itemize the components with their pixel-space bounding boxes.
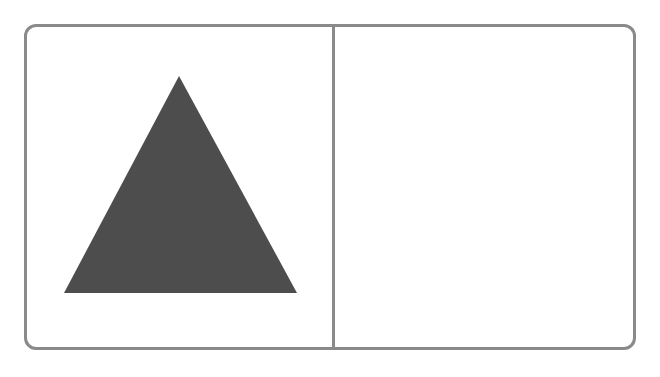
- right-panel-empty: [335, 27, 633, 347]
